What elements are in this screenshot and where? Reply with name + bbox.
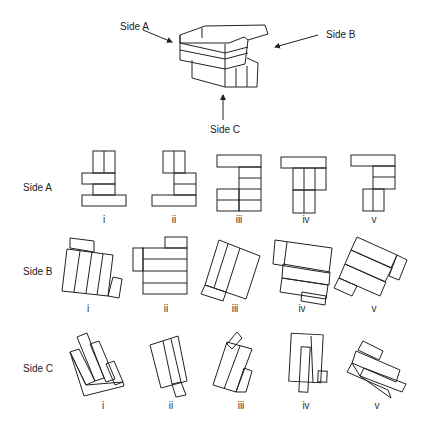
side-c-label-v: v: [367, 400, 387, 411]
side-b-label-iv: iv: [292, 303, 312, 314]
side-c-label-ii: ii: [161, 400, 181, 411]
arrow-side-b: [275, 35, 318, 47]
side-c-option-v: [347, 341, 406, 398]
label-side-a-model: Side A: [120, 21, 149, 32]
row-label-side-a: Side A: [23, 182, 52, 193]
side-a-option-iv: [281, 157, 326, 213]
side-c-label-i: i: [93, 400, 113, 411]
side-b-label-i: i: [78, 303, 98, 314]
side-c-option-ii: [150, 336, 187, 397]
label-side-c-model: Side C: [210, 124, 240, 135]
side-b-option-iii: [201, 240, 260, 301]
diagram-canvas: [0, 0, 428, 425]
block-model: [180, 25, 268, 87]
side-c-label-iv: iv: [296, 400, 316, 411]
side-b-option-v: [334, 237, 407, 296]
side-b-label-v: v: [364, 303, 384, 314]
side-a-label-i: i: [94, 214, 114, 225]
side-a-option-v: [351, 155, 395, 211]
side-b-label-ii: ii: [156, 303, 176, 314]
side-b-option-iv: [273, 240, 332, 305]
side-a-option-iii: [217, 155, 261, 211]
label-side-b-model: Side B: [326, 29, 355, 40]
side-a-label-v: v: [364, 214, 384, 225]
side-b-option-ii: [133, 237, 187, 294]
side-b-label-iii: iii: [225, 303, 245, 314]
side-c-option-iv: [289, 333, 327, 392]
side-a-option-ii: [152, 151, 196, 206]
side-c-option-iii: [213, 332, 252, 392]
row-label-side-b: Side B: [23, 266, 52, 277]
side-a-label-ii: ii: [164, 214, 184, 225]
row-label-side-c: Side C: [23, 363, 53, 374]
side-c-label-iii: iii: [231, 400, 251, 411]
side-c-option-i: [70, 333, 124, 396]
side-a-option-i: [82, 151, 126, 206]
side-b-option-i: [62, 238, 122, 298]
side-a-label-iii: iii: [229, 214, 249, 225]
side-a-label-iv: iv: [296, 214, 316, 225]
